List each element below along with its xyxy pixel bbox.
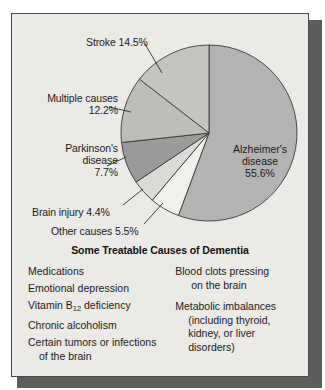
table-item: Certain tumors or infectionsof the brain (28, 336, 175, 363)
table-item: Chronic alcoholism (28, 319, 175, 333)
pie-label-alzheimers-value: 55.6% (245, 167, 275, 179)
pie-label-alzheimers-name2: disease (242, 155, 278, 167)
figure-container: Stroke 14.5% Multiple causes 12.2% Parki… (0, 0, 325, 390)
pie-label-brain-injury: Brain injury 4.4% (32, 206, 110, 218)
pie-label-alzheimers: Alzheimer's disease 55.6% (221, 143, 299, 180)
figure-panel: Stroke 14.5% Multiple causes 12.2% Parki… (11, 13, 309, 377)
table-column-right: Blood clots pressingon the brainMetaboli… (175, 265, 294, 367)
leader-line-other-causes (144, 203, 163, 224)
table-item: Metabolic imbalances(including thyroid,k… (175, 300, 294, 354)
leader-line-brain-injury (123, 189, 143, 205)
pie-label-multiple-causes-value: 12.2% (89, 104, 118, 116)
table-item: Emotional depression (28, 282, 175, 296)
pie-label-stroke-text: Stroke 14.5% (86, 36, 148, 48)
table-item-continuation: (including thyroid, (175, 314, 294, 328)
table-item: Vitamin B12 deficiency (28, 299, 175, 315)
pie-label-parkinsons-name: Parkinson's (65, 142, 118, 154)
pie-chart-area: Stroke 14.5% Multiple causes 12.2% Parki… (12, 14, 310, 242)
pie-label-multiple-causes-name: Multiple causes (47, 92, 118, 104)
pie-label-brain-injury-text: Brain injury 4.4% (32, 206, 110, 218)
subscript: 12 (73, 304, 81, 313)
table-column-left: MedicationsEmotional depressionVitamin B… (28, 265, 175, 367)
pie-label-alzheimers-name: Alzheimer's (233, 143, 287, 155)
table-title: Some Treatable Causes of Dementia (12, 244, 308, 256)
treatable-causes-table: Some Treatable Causes of Dementia Medica… (12, 244, 308, 367)
pie-label-parkinsons-value: 7.7% (94, 166, 118, 178)
pie-label-parkinsons: Parkinson's disease 7.7% (32, 142, 118, 179)
pie-label-other-causes: Other causes 5.5% (51, 225, 139, 237)
table-item-continuation: kidney, or liver (175, 327, 294, 341)
table-item-continuation: on the brain (175, 279, 294, 293)
pie-label-parkinsons-name2: disease (83, 154, 119, 166)
table-item: Medications (28, 265, 175, 279)
table-item-continuation: of the brain (28, 350, 175, 364)
pie-label-stroke: Stroke 14.5% (86, 36, 148, 48)
pie-slices-group (121, 45, 297, 221)
table-item-continuation: disorders) (175, 341, 294, 355)
table-item: Blood clots pressingon the brain (175, 265, 294, 292)
table-columns: MedicationsEmotional depressionVitamin B… (12, 265, 308, 367)
pie-label-other-causes-text: Other causes 5.5% (51, 225, 139, 237)
pie-label-multiple-causes: Multiple causes 12.2% (26, 92, 118, 116)
